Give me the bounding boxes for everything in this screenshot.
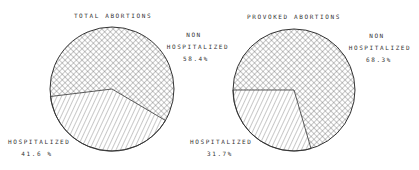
non-hospitalized-percent: 68.3% [356,56,402,63]
hospitalized-percent: 41.6 % [14,150,60,157]
non-hospitalized-label: NON [168,31,220,38]
chart-title: PROVOKED ABORTIONS [244,13,344,20]
chart-title: TOTAL ABORTIONS [68,12,158,19]
non-hospitalized-label: NON [354,32,400,39]
non-hospitalized-percent: 58.4% [170,55,222,62]
non-hospitalized-label: HOSPITALIZED [348,44,412,51]
hospitalized-label: HOSPITALIZED [8,138,70,145]
non-hospitalized-label: HOSPITALIZED [166,43,230,50]
pie-provoked-abortions [233,29,355,151]
hospitalized-label: HOSPITALIZED [190,138,252,145]
pie-total-abortions [50,27,174,151]
hospitalized-percent: 31.7% [200,150,240,157]
